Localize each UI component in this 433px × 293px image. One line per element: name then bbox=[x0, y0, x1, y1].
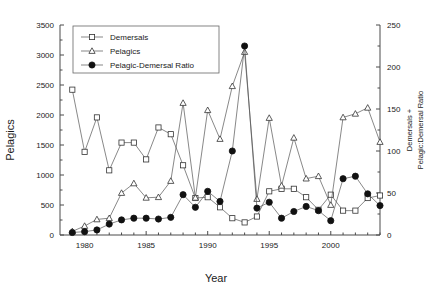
y2-tick-label: 50 bbox=[387, 189, 396, 198]
x-tick-label: 1980 bbox=[76, 241, 94, 250]
x-tick-label: 1990 bbox=[199, 241, 217, 250]
data-point-filled-circle bbox=[180, 192, 186, 198]
legend-marker-filled-circle bbox=[89, 62, 95, 68]
legend-label[interactable]: Pelagic-Demersal Ratio bbox=[110, 61, 195, 70]
y-tick-label: 0 bbox=[50, 231, 55, 240]
data-point-filled-circle bbox=[205, 188, 211, 194]
data-point-open-square bbox=[119, 140, 124, 145]
y2-axis-title-part2: Pelagic:Demersal Ratio bbox=[416, 91, 425, 169]
data-point-filled-circle bbox=[365, 191, 371, 197]
data-point-filled-circle bbox=[291, 208, 297, 214]
x-tick-label: 1995 bbox=[260, 241, 278, 250]
data-point-filled-circle bbox=[155, 216, 161, 222]
y2-tick-label: 150 bbox=[387, 105, 401, 114]
data-point-filled-circle bbox=[352, 173, 358, 179]
legend-label[interactable]: Pelagics bbox=[110, 47, 140, 56]
legend-label[interactable]: Demersals bbox=[110, 33, 148, 42]
data-point-filled-circle bbox=[143, 215, 149, 221]
data-point-filled-circle bbox=[192, 204, 198, 210]
data-point-open-square bbox=[304, 195, 309, 200]
data-point-open-square bbox=[70, 87, 75, 92]
data-point-open-square bbox=[254, 214, 259, 219]
data-point-open-square bbox=[205, 195, 210, 200]
data-point-filled-circle bbox=[315, 208, 321, 214]
data-point-open-square bbox=[291, 186, 296, 191]
x-tick-label: 2000 bbox=[322, 241, 340, 250]
chart-figure: 0500100015002000250030003500050100150200… bbox=[0, 0, 433, 293]
data-point-filled-circle bbox=[340, 176, 346, 182]
data-point-open-square bbox=[82, 149, 87, 154]
chart-legend[interactable]: DemersalsPelagicsPelagic-Demersal Ratio bbox=[73, 26, 219, 73]
data-point-open-square bbox=[377, 193, 382, 198]
y2-axis-title-part1: Demersals + bbox=[405, 108, 414, 151]
data-point-filled-circle bbox=[118, 217, 124, 223]
y-axis-title: Pelagics bbox=[4, 119, 16, 161]
data-point-filled-circle bbox=[131, 215, 137, 221]
legend-marker-open-square bbox=[89, 34, 94, 39]
x-axis-title: Year bbox=[205, 272, 228, 284]
data-point-filled-circle bbox=[229, 148, 235, 154]
data-point-open-square bbox=[131, 140, 136, 145]
data-point-filled-circle bbox=[69, 229, 75, 235]
y2-tick-label: 250 bbox=[387, 21, 401, 30]
data-point-filled-circle bbox=[266, 199, 272, 205]
data-point-open-square bbox=[180, 163, 185, 168]
data-point-open-square bbox=[267, 189, 272, 194]
data-point-filled-circle bbox=[242, 43, 248, 49]
dual-axis-line-chart: 0500100015002000250030003500050100150200… bbox=[0, 0, 433, 293]
x-tick-label: 1985 bbox=[137, 241, 155, 250]
y2-tick-label: 0 bbox=[387, 231, 392, 240]
data-point-open-square bbox=[156, 125, 161, 130]
y-tick-label: 3500 bbox=[36, 21, 54, 30]
data-point-filled-circle bbox=[94, 227, 100, 233]
data-point-filled-circle bbox=[278, 215, 284, 221]
data-point-filled-circle bbox=[106, 221, 112, 227]
data-point-open-square bbox=[340, 208, 345, 213]
y-tick-label: 500 bbox=[41, 201, 55, 210]
data-point-open-square bbox=[353, 208, 358, 213]
data-point-open-square bbox=[144, 157, 149, 162]
y-tick-label: 1500 bbox=[36, 141, 54, 150]
data-point-filled-circle bbox=[82, 229, 88, 235]
y-tick-label: 3000 bbox=[36, 51, 54, 60]
data-point-open-square bbox=[217, 205, 222, 210]
y-tick-label: 2000 bbox=[36, 111, 54, 120]
data-point-filled-circle bbox=[377, 203, 383, 209]
data-point-filled-circle bbox=[168, 214, 174, 220]
data-point-filled-circle bbox=[303, 203, 309, 209]
y-tick-label: 2500 bbox=[36, 81, 54, 90]
y2-tick-label: 100 bbox=[387, 147, 401, 156]
data-point-open-square bbox=[230, 216, 235, 221]
y2-tick-label: 200 bbox=[387, 63, 401, 72]
data-point-open-square bbox=[168, 132, 173, 137]
data-point-filled-circle bbox=[217, 198, 223, 204]
data-point-filled-circle bbox=[328, 218, 334, 224]
data-point-filled-circle bbox=[254, 205, 260, 211]
y-tick-label: 1000 bbox=[36, 171, 54, 180]
data-point-open-square bbox=[242, 220, 247, 225]
data-point-open-square bbox=[94, 115, 99, 120]
data-point-open-square bbox=[107, 168, 112, 173]
